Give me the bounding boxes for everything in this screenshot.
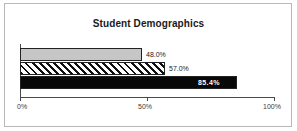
bar-value-2: 57.0% xyxy=(169,62,189,75)
x-tick-50 xyxy=(147,97,148,101)
x-tick-label-0: 0% xyxy=(17,103,27,110)
bar-value-1: 48.0% xyxy=(146,48,166,61)
x-tick-label-100: 100% xyxy=(263,103,281,110)
x-tick-100 xyxy=(274,97,275,101)
chart-title: Student Demographics xyxy=(0,18,297,29)
x-tick-0 xyxy=(20,97,21,101)
bar-value-3: 85.4% xyxy=(198,76,220,89)
x-tick-label-50: 50% xyxy=(138,103,152,110)
chart-figure: Student Demographics 0% 50% 100% 48.0% 5… xyxy=(0,0,297,131)
bar-series-1 xyxy=(20,48,142,61)
plot-area: 0% 50% 100% 48.0% 57.0% 85.4% xyxy=(20,44,275,99)
bar-series-2 xyxy=(20,62,165,75)
